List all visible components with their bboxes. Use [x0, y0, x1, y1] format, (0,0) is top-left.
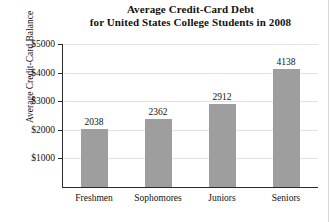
- bar-value-label: 4138: [277, 57, 296, 67]
- plot-area: $1000$2000$3000$4000$5000 20382362291241…: [62, 44, 318, 188]
- bar-chart-figure: Average Credit-Card Debt for United Stat…: [0, 0, 329, 222]
- x-axis-tick-label: Freshmen: [75, 193, 112, 203]
- x-axis-tick-label: Sophomores: [134, 193, 182, 203]
- chart-title-line-1: Average Credit-Card Debt: [62, 3, 319, 16]
- x-axis-line: [62, 187, 318, 188]
- x-axis-tick-label: Juniors: [208, 193, 235, 203]
- chart-title-line-2: for United States College Students in 20…: [62, 16, 319, 29]
- bar-value-label: 2912: [213, 92, 232, 102]
- y-axis-tick-label: $1000: [31, 153, 55, 163]
- y-axis-tick-label: $2000: [31, 125, 55, 135]
- y-axis-tick-label: $4000: [31, 68, 55, 78]
- bar[interactable]: 2038: [81, 129, 108, 187]
- y-axis-tick-label: $3000: [31, 96, 55, 106]
- bar[interactable]: 2912: [209, 104, 236, 187]
- chart-title: Average Credit-Card Debt for United Stat…: [62, 3, 319, 29]
- y-axis-line: [62, 44, 63, 188]
- y-axis-tick-mark: [58, 101, 63, 102]
- bar[interactable]: 2362: [145, 119, 172, 187]
- y-axis-tick-label: $5000: [31, 39, 55, 49]
- bar-value-label: 2362: [149, 107, 168, 117]
- bar[interactable]: 4138: [273, 69, 300, 187]
- y-axis-tick-mark: [58, 130, 63, 131]
- y-axis-tick-mark: [58, 158, 63, 159]
- gridline: [62, 44, 318, 45]
- x-axis-tick-label: Seniors: [272, 193, 301, 203]
- bar-value-label: 2038: [85, 117, 104, 127]
- y-axis-tick-mark: [58, 44, 63, 45]
- y-axis-tick-mark: [58, 73, 63, 74]
